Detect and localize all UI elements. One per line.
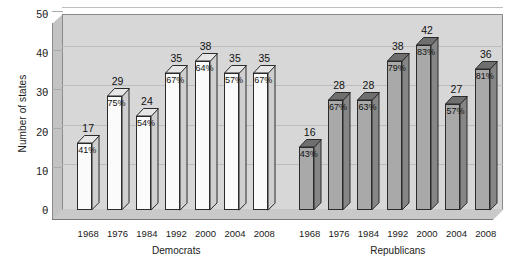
bar-side-face bbox=[430, 37, 439, 211]
bar-top-face bbox=[165, 65, 189, 74]
bar-top-face bbox=[253, 65, 277, 74]
bar-front-face bbox=[357, 100, 372, 210]
bar-front-face bbox=[416, 45, 431, 210]
bar-side-face bbox=[401, 53, 410, 211]
bar-front-face bbox=[445, 104, 460, 210]
bar-percent-label: 81% bbox=[476, 71, 494, 81]
bar-percent-label: 67% bbox=[329, 102, 347, 112]
bar-value-label: 38 bbox=[384, 40, 412, 52]
bar-value-label: 16 bbox=[296, 126, 324, 138]
bar-percent-label: 43% bbox=[300, 149, 318, 159]
x-axis-tick-label: 2008 bbox=[254, 228, 275, 239]
bar-side-face bbox=[489, 61, 498, 211]
bar-value-label: 27 bbox=[442, 83, 470, 95]
bar-percent-label: 54% bbox=[137, 118, 155, 128]
bar-value-label: 42 bbox=[413, 24, 441, 36]
bar-percent-label: 57% bbox=[225, 75, 243, 85]
bar-column bbox=[253, 73, 268, 210]
bar-value-label: 35 bbox=[221, 52, 249, 64]
bar-front-face bbox=[328, 100, 343, 210]
bar-percent-label: 67% bbox=[166, 75, 184, 85]
bar-top-face bbox=[416, 37, 440, 46]
bar-column bbox=[136, 116, 151, 210]
x-axis-tick-label: 2004 bbox=[446, 228, 467, 239]
bar-front-face bbox=[107, 96, 122, 210]
x-axis-tick-label: 1976 bbox=[107, 228, 128, 239]
bar-side-face bbox=[238, 65, 247, 211]
x-axis-tick-label: 2000 bbox=[417, 228, 438, 239]
bar-percent-label: 83% bbox=[417, 47, 435, 57]
bar-column bbox=[357, 100, 372, 210]
x-axis-tick-label: 2004 bbox=[224, 228, 245, 239]
bar-front-face bbox=[387, 61, 402, 210]
bar-chart: Number of states 01020304050 1741%2975%2… bbox=[0, 0, 515, 265]
bar-column bbox=[445, 104, 460, 210]
bar-value-label: 35 bbox=[162, 52, 190, 64]
bar-front-face bbox=[224, 73, 239, 210]
bar-front-face bbox=[136, 116, 151, 210]
bar-value-label: 17 bbox=[74, 122, 102, 134]
x-axis-tick-label: 1984 bbox=[136, 228, 157, 239]
bar-percent-label: 64% bbox=[196, 63, 214, 73]
bar-value-label: 28 bbox=[325, 79, 353, 91]
bar-front-face bbox=[195, 61, 210, 210]
bar-top-face bbox=[224, 65, 248, 74]
bar-top-face bbox=[299, 139, 323, 148]
bar-top-face bbox=[445, 96, 469, 105]
x-axis-tick-label: 2000 bbox=[195, 228, 216, 239]
x-axis-group-label: Republicans bbox=[370, 245, 425, 256]
bar-top-face bbox=[77, 135, 101, 144]
bar-value-label: 24 bbox=[133, 95, 161, 107]
bar-percent-label: 67% bbox=[254, 75, 272, 85]
bar-percent-label: 63% bbox=[358, 102, 376, 112]
bar-column bbox=[107, 96, 122, 210]
x-axis-tick-label: 1968 bbox=[78, 228, 99, 239]
bar-top-face bbox=[357, 92, 381, 101]
bars-layer: 1741%2975%2454%3567%3864%3557%3567%1643%… bbox=[0, 0, 515, 265]
bar-column bbox=[165, 73, 180, 210]
bar-value-label: 29 bbox=[104, 75, 132, 87]
bar-top-face bbox=[136, 108, 160, 117]
bar-percent-label: 41% bbox=[78, 145, 96, 155]
x-axis-tick-label: 1976 bbox=[328, 228, 349, 239]
bar-column bbox=[224, 73, 239, 210]
bar-front-face bbox=[475, 69, 490, 210]
bar-side-face bbox=[209, 53, 218, 211]
bar-percent-label: 79% bbox=[388, 63, 406, 73]
bar-value-label: 28 bbox=[354, 79, 382, 91]
x-axis-tick-label: 1968 bbox=[299, 228, 320, 239]
bar-top-face bbox=[107, 88, 131, 97]
bar-top-face bbox=[475, 61, 499, 70]
bar-value-label: 38 bbox=[192, 40, 220, 52]
bar-column bbox=[195, 61, 210, 210]
bar-front-face bbox=[165, 73, 180, 210]
bar-value-label: 36 bbox=[472, 48, 500, 60]
x-axis-tick-label: 1992 bbox=[166, 228, 187, 239]
bar-side-face bbox=[179, 65, 188, 211]
bar-column bbox=[328, 100, 343, 210]
bar-percent-label: 75% bbox=[108, 98, 126, 108]
bar-side-face bbox=[267, 65, 276, 211]
x-axis-group-label: Democrats bbox=[152, 245, 200, 256]
bar-top-face bbox=[387, 53, 411, 62]
bar-column bbox=[416, 45, 431, 210]
x-axis-tick-label: 2008 bbox=[475, 228, 496, 239]
bar-column bbox=[387, 61, 402, 210]
bar-top-face bbox=[195, 53, 219, 62]
bar-front-face bbox=[253, 73, 268, 210]
x-axis-tick-label: 1984 bbox=[358, 228, 379, 239]
bar-top-face bbox=[328, 92, 352, 101]
x-axis-tick-label: 1992 bbox=[387, 228, 408, 239]
bar-column bbox=[475, 69, 490, 210]
bar-percent-label: 57% bbox=[446, 106, 464, 116]
bar-value-label: 35 bbox=[250, 52, 278, 64]
